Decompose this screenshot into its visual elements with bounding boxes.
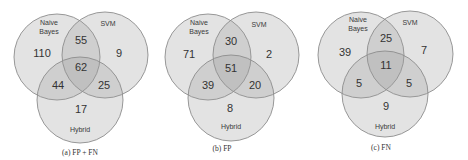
- count-nb-svm: 55: [75, 34, 87, 46]
- count-nb-hybrid: 39: [202, 79, 214, 91]
- count-all: 51: [225, 62, 237, 74]
- label-naive: Naive: [40, 19, 58, 26]
- label-bayes: Bayes: [39, 28, 59, 36]
- count-nb-svm: 25: [380, 32, 392, 44]
- count-all: 62: [75, 61, 87, 73]
- label-bayes: Bayes: [348, 25, 368, 33]
- count-svm-only: 7: [421, 44, 427, 56]
- count-nb-only: 71: [183, 48, 195, 60]
- count-nb-hybrid: 5: [356, 77, 362, 89]
- label-svm: SVM: [251, 21, 266, 28]
- count-nb-hybrid: 44: [52, 79, 64, 91]
- caption-c: (c) FN: [371, 143, 391, 152]
- count-svm-hybrid: 20: [249, 79, 261, 91]
- label-svm: SVM: [402, 19, 417, 26]
- count-all: 11: [380, 59, 391, 71]
- label-bayes: Bayes: [189, 28, 209, 36]
- count-svm-only: 2: [266, 48, 272, 60]
- count-nb-only: 39: [339, 46, 351, 58]
- venn-figure: Naive Bayes SVM Hybrid 110 55 9 62 44 25…: [0, 0, 468, 160]
- count-svm-only: 9: [116, 47, 122, 59]
- count-hybrid-only: 8: [227, 102, 233, 114]
- label-naive: Naive: [349, 16, 367, 23]
- count-svm-hybrid: 5: [406, 77, 412, 89]
- count-hybrid-only: 9: [383, 100, 389, 112]
- caption-b: (b) FP: [213, 144, 232, 153]
- count-svm-hybrid: 25: [98, 79, 110, 91]
- caption-a: (a) FP + FN: [62, 148, 98, 157]
- count-nb-only: 110: [33, 47, 51, 59]
- label-naive: Naive: [190, 19, 208, 26]
- count-nb-svm: 30: [225, 35, 237, 47]
- label-hybrid: Hybrid: [221, 123, 241, 131]
- venn-panel-b: Naive Bayes SVM Hybrid 71 30 2 51 39 20 …: [165, 12, 299, 153]
- venn-panel-c: Naive Bayes SVM Hybrid 39 25 7 11 5 5 9 …: [318, 11, 453, 152]
- count-hybrid-only: 17: [75, 103, 87, 115]
- venn-panel-a: Naive Bayes SVM Hybrid 110 55 9 62 44 25…: [14, 12, 148, 157]
- label-hybrid: Hybrid: [375, 123, 395, 131]
- label-hybrid: Hybrid: [70, 126, 90, 134]
- label-svm: SVM: [100, 20, 115, 27]
